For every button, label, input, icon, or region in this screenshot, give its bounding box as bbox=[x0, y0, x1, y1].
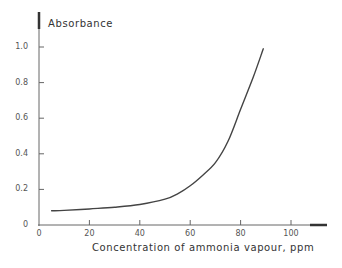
x-tick-label: 0 bbox=[24, 230, 54, 238]
x-tick-label: 40 bbox=[125, 230, 155, 238]
y-tick-label: 1.0 bbox=[6, 43, 28, 51]
x-tick-label: 60 bbox=[175, 230, 205, 238]
y-tick-label: 0.6 bbox=[6, 114, 28, 122]
y-axis-title: Absorbance bbox=[48, 18, 113, 29]
x-tick-label: 20 bbox=[74, 230, 104, 238]
x-axis bbox=[38, 220, 327, 225]
data-curve bbox=[52, 49, 264, 211]
y-tick-label: 0.2 bbox=[6, 185, 28, 193]
x-tick-label: 100 bbox=[276, 230, 306, 238]
x-axis-title: Concentration of ammonia vapour, ppm bbox=[92, 242, 314, 253]
x-tick-label: 80 bbox=[226, 230, 256, 238]
chart-canvas bbox=[0, 0, 342, 268]
y-tick-label: 0 bbox=[6, 221, 28, 229]
y-axis bbox=[39, 12, 44, 226]
y-tick-label: 0.8 bbox=[6, 79, 28, 87]
y-tick-label: 0.4 bbox=[6, 150, 28, 158]
